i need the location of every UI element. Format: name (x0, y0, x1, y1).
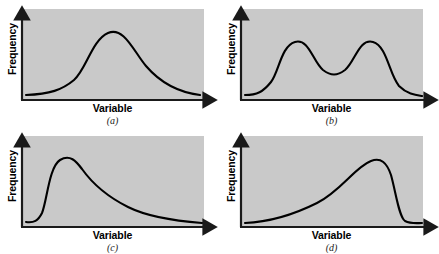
panel-caption-a: (a) (21, 115, 204, 126)
curve-bimodal (245, 42, 422, 96)
x-axis-label-b: Variable (240, 102, 423, 114)
y-axis-label-a: Frequency (5, 16, 19, 82)
distribution-shapes-figure: Frequency Variable (a) Frequency Variabl… (0, 0, 439, 254)
panel-d: Frequency Variable (d) (219, 127, 438, 254)
x-axis-label-c: Variable (21, 229, 204, 241)
x-axis-label-a: Variable (21, 102, 204, 114)
panel-caption-d: (d) (240, 242, 423, 253)
x-axis-label-d: Variable (240, 229, 423, 241)
y-axis-label-c: Frequency (5, 143, 19, 209)
curve-left-skewed (245, 160, 422, 223)
curve-symmetric-bell (26, 32, 200, 95)
panel-caption-c: (c) (21, 242, 204, 253)
panel-c: Frequency Variable (c) (0, 127, 219, 254)
panel-caption-b: (b) (240, 115, 423, 126)
y-axis-label-b: Frequency (224, 16, 238, 82)
panel-b: Frequency Variable (b) (219, 0, 438, 127)
panel-a: Frequency Variable (a) (0, 0, 219, 127)
y-axis-label-d: Frequency (224, 143, 238, 209)
curve-right-skewed (26, 158, 202, 223)
